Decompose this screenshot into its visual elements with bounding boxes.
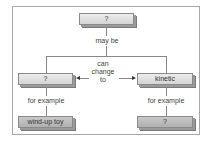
may-be-label: may be — [86, 37, 128, 45]
arrow-left-icon — [76, 76, 80, 80]
arrow-line-right — [119, 78, 132, 79]
left-leaf-wind-up-toy: wind-up toy — [18, 116, 73, 128]
top-node: ? — [79, 13, 134, 25]
connector-top-lower — [106, 46, 107, 56]
for-example-left-label: for example — [22, 97, 70, 105]
arrow-line-left — [80, 78, 89, 79]
connector-right-lower — [166, 106, 167, 116]
left-node: ? — [18, 73, 73, 85]
arrow-right-icon — [132, 76, 136, 80]
connector-left-lower — [46, 106, 47, 116]
for-example-right-label: for example — [142, 97, 190, 105]
label-line-can: can — [88, 60, 118, 68]
can-change-to-label: can change to — [88, 60, 118, 84]
label-line-to: to — [88, 76, 118, 84]
connector-top — [106, 27, 107, 36]
connector-right — [166, 87, 167, 96]
label-line-change: change — [88, 68, 118, 76]
right-leaf-node: ? — [137, 116, 193, 128]
connector-left — [46, 87, 47, 96]
right-node-kinetic: kinetic — [137, 73, 193, 85]
